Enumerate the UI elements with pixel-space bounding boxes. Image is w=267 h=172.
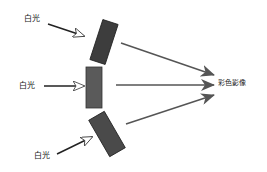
input-arrow-top (48, 24, 84, 36)
input-label-bottom: 白光 (34, 152, 50, 160)
output-label: 彩色影像 (218, 80, 246, 87)
panel-bottom (89, 111, 126, 156)
panel-middle (86, 67, 102, 108)
input-label-middle: 白光 (19, 82, 35, 90)
panel-top (90, 20, 118, 65)
input-arrow-bottom (57, 137, 92, 154)
output-arrow-bottom (126, 95, 214, 124)
input-label-top: 白光 (24, 15, 40, 23)
output-arrow-top (121, 43, 214, 75)
